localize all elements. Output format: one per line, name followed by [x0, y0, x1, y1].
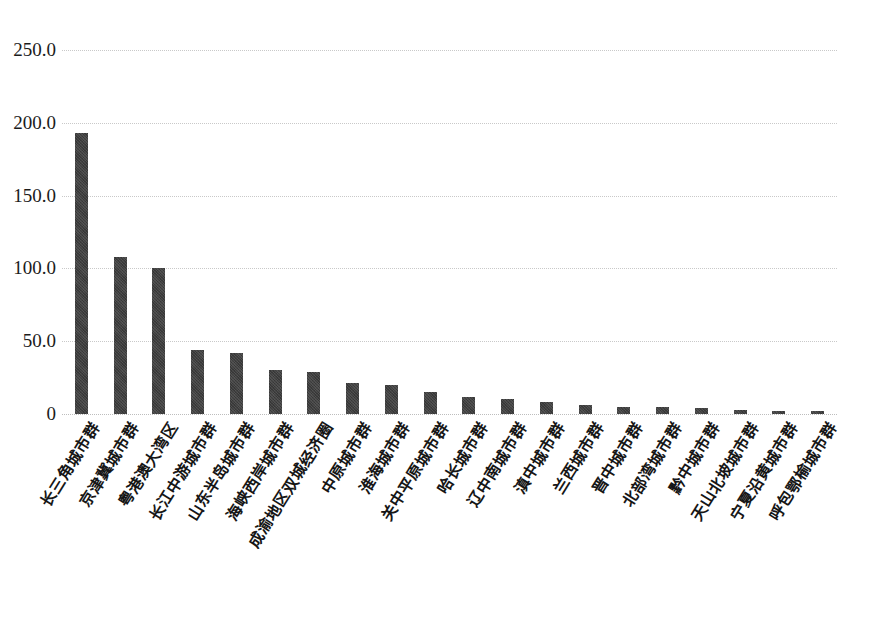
x-axis-category-labels: 长三角城市群京津冀城市群粤港澳大湾区长江中游城市群山东半岛城市群海峡西岸城市群成…: [62, 414, 837, 614]
y-tick-label: 0: [47, 404, 57, 423]
y-tick-label: 250.0: [13, 40, 56, 59]
bar-series: [62, 50, 837, 414]
y-tick-label: 200.0: [13, 113, 56, 132]
y-tick-label: 150.0: [13, 186, 56, 205]
bar: [307, 372, 320, 414]
bar: [656, 407, 669, 414]
y-axis-tick-labels: 050.0100.0150.0200.0250.0: [0, 50, 56, 414]
bar: [75, 133, 88, 414]
bar: [114, 257, 127, 414]
bar: [462, 397, 475, 414]
bar: [579, 405, 592, 414]
bar: [385, 385, 398, 414]
plot-area: [62, 50, 837, 414]
bar: [152, 268, 165, 414]
bar: [501, 399, 514, 414]
bar: [424, 392, 437, 414]
bar: [617, 407, 630, 414]
bar-chart-figure: 050.0100.0150.0200.0250.0 长三角城市群京津冀城市群粤港…: [0, 0, 871, 620]
bar: [346, 383, 359, 414]
bar: [191, 350, 204, 414]
bar: [269, 370, 282, 414]
bar: [230, 353, 243, 414]
y-tick-label: 100.0: [13, 258, 56, 277]
bar: [540, 402, 553, 414]
y-tick-label: 50.0: [23, 331, 56, 350]
